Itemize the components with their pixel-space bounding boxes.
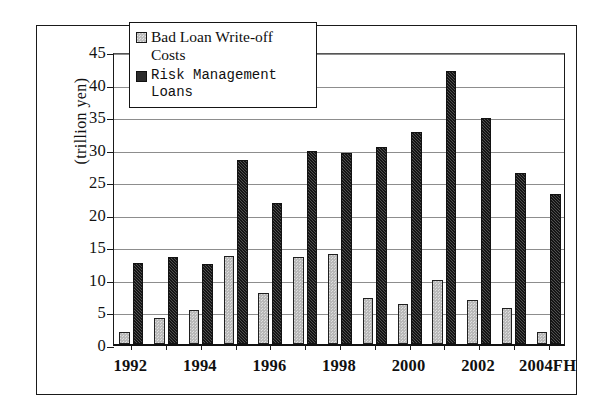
x-axis-tick	[270, 344, 271, 350]
bar	[293, 257, 304, 344]
x-axis-tick-label: 1998	[322, 356, 356, 376]
bar-group	[531, 54, 566, 344]
y-axis-tick-labels: 051015202530354045	[62, 53, 106, 346]
y-axis-tick-label: 35	[89, 108, 106, 128]
legend-swatch-light-icon	[136, 32, 147, 43]
x-axis-tick	[410, 344, 411, 350]
y-axis-tick-label: 45	[89, 43, 106, 63]
legend-label: Bad Loan Write-off Costs	[151, 28, 310, 64]
x-axis-tick	[131, 344, 132, 350]
bar	[341, 153, 352, 344]
x-axis-tick	[236, 344, 237, 350]
bar-group	[357, 54, 392, 344]
x-axis-tick-label: 1992	[113, 356, 147, 376]
x-axis-tick	[166, 344, 167, 350]
x-axis-tick-label: 2000	[392, 356, 426, 376]
y-axis-tick-label: 40	[89, 76, 106, 96]
x-axis-tick	[549, 344, 550, 350]
bar	[189, 310, 200, 345]
x-axis-tick	[375, 344, 376, 350]
legend-item-risk-management-loans: Risk Management Loans	[136, 67, 310, 101]
bar	[237, 160, 248, 344]
bar	[133, 263, 144, 344]
bar	[328, 254, 339, 344]
bar-group	[323, 54, 358, 344]
bar-group	[427, 54, 462, 344]
x-axis-tick-label: 2004FH	[519, 356, 576, 376]
bar	[154, 318, 165, 344]
y-axis-tick-label: 20	[89, 206, 106, 226]
y-axis-tick-label: 25	[89, 173, 106, 193]
bar	[411, 132, 422, 344]
x-axis-tick-label: 1996	[253, 356, 287, 376]
bar	[432, 280, 443, 344]
bar	[481, 118, 492, 344]
bar	[202, 264, 213, 344]
bar	[307, 151, 318, 344]
y-axis-tick-label: 5	[98, 303, 106, 323]
x-axis-tick-label: 2002	[461, 356, 495, 376]
bar	[502, 308, 513, 344]
bar	[272, 203, 283, 344]
bar-group	[496, 54, 531, 344]
x-axis-tick	[340, 344, 341, 350]
y-axis-tick-label: 0	[98, 336, 106, 356]
bar	[119, 332, 130, 344]
x-axis-tick	[305, 344, 306, 350]
y-axis-tick-label: 15	[89, 238, 106, 258]
bar	[376, 147, 387, 344]
bar-group	[392, 54, 427, 344]
bar	[224, 256, 235, 344]
legend-label: Risk Management Loans	[151, 67, 310, 101]
chart-legend: Bad Loan Write-off Costs Risk Management…	[129, 22, 317, 108]
legend-item-bad-loan-write-off-costs: Bad Loan Write-off Costs	[136, 28, 310, 64]
x-axis-tick-label: 1994	[183, 356, 217, 376]
bar	[168, 257, 179, 344]
bar	[363, 298, 374, 344]
chart-figure: (trillion yen) 051015202530354045 199219…	[0, 0, 605, 416]
bar	[446, 71, 457, 344]
bar	[467, 300, 478, 344]
legend-swatch-dark-icon	[136, 71, 147, 82]
x-axis-tick	[201, 344, 202, 350]
bar	[537, 332, 548, 344]
bar	[258, 293, 269, 344]
bar	[515, 173, 526, 344]
x-axis-tick	[479, 344, 480, 350]
x-axis-tick	[444, 344, 445, 350]
x-axis-tick-labels: 1992199419961998200020022004FH	[113, 356, 565, 384]
y-axis-tick-label: 10	[89, 271, 106, 291]
bar	[550, 194, 561, 344]
y-axis-tick-label: 30	[89, 141, 106, 161]
x-axis-tick	[514, 344, 515, 350]
bar	[398, 304, 409, 344]
bar-group	[462, 54, 497, 344]
